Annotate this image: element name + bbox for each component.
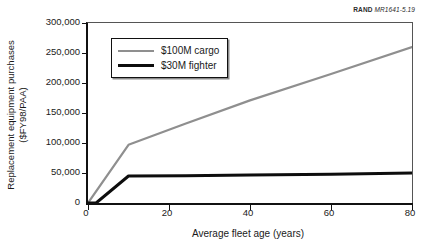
- y-axis-tick-label: 250,000: [34, 47, 80, 57]
- rand-document-number: MR1641-5.19: [375, 6, 415, 13]
- y-axis-tick-label: 150,000: [34, 107, 80, 117]
- source-tag: RANDMR1641-5.19: [353, 6, 415, 13]
- rand-logo-text: RAND: [353, 6, 372, 13]
- x-axis-tick-label: 20: [162, 208, 173, 218]
- legend-swatch-cargo-icon: [118, 50, 154, 52]
- series-line: [88, 173, 412, 203]
- chart-legend: $100M cargo $30M fighter: [111, 38, 228, 78]
- y-axis-tick-label: 50,000: [34, 167, 80, 177]
- y-axis-tick-label: 200,000: [34, 77, 80, 87]
- x-axis-tick-label: 60: [324, 208, 335, 218]
- legend-swatch-fighter-icon: [118, 64, 154, 67]
- y-axis-tick-mark: [82, 53, 88, 54]
- y-axis-tick-mark: [82, 143, 88, 144]
- y-axis-title: Replacement equipment purchases ($FY98/P…: [0, 0, 34, 230]
- y-axis-tick-labels: 050,000100,000150,000200,000250,000300,0…: [32, 0, 80, 252]
- y-axis-tick-label: 0: [34, 197, 80, 207]
- y-axis-title-line2: ($FY98/PAA): [17, 40, 29, 189]
- y-axis-tick-mark: [82, 113, 88, 114]
- y-axis-tick-mark: [82, 173, 88, 174]
- y-axis-tick-mark: [82, 83, 88, 84]
- legend-label-fighter: $30M fighter: [161, 61, 217, 71]
- legend-item-fighter: $30M fighter: [118, 58, 219, 73]
- legend-item-cargo: $100M cargo: [118, 43, 219, 58]
- y-axis-tick-label: 100,000: [34, 137, 80, 147]
- y-axis-tick-label: 300,000: [34, 17, 80, 27]
- x-axis-title: Average fleet age (years): [86, 228, 410, 239]
- x-axis-tick-label: 40: [243, 208, 254, 218]
- legend-label-cargo: $100M cargo: [161, 46, 219, 56]
- x-axis-tick-label: 0: [83, 208, 88, 218]
- y-axis-title-line1: Replacement equipment purchases: [5, 40, 16, 189]
- x-axis-tick-label: 80: [405, 208, 416, 218]
- y-axis-tick-mark: [82, 23, 88, 24]
